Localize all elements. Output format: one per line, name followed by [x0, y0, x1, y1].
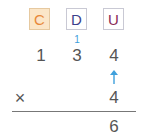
- operator-times: ×: [10, 88, 30, 109]
- arrow-up-icon: [110, 70, 118, 84]
- result-units: 6: [104, 117, 124, 137]
- result-divider: [12, 111, 136, 112]
- multiplicand-tens: 3: [67, 46, 87, 66]
- header-centenas: C: [29, 8, 50, 30]
- header-c-label: C: [34, 11, 45, 28]
- header-dezenas: D: [66, 8, 87, 30]
- carry-digit: 1: [67, 34, 87, 45]
- multiplicand-hundreds: 1: [31, 46, 51, 66]
- header-u-label: U: [108, 11, 119, 28]
- multiplier: 4: [104, 88, 124, 108]
- header-d-label: D: [71, 11, 82, 28]
- multiplicand-units: 4: [104, 46, 124, 66]
- header-unidades: U: [103, 8, 124, 30]
